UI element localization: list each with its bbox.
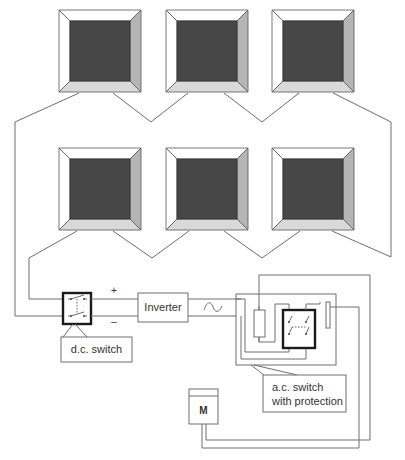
pv-cell-area xyxy=(177,159,237,219)
solar-panel xyxy=(59,10,141,92)
dc-switch-label: d.c. switch xyxy=(71,343,122,355)
pv-cell-area xyxy=(177,21,237,81)
inverter: Inverter xyxy=(138,293,188,322)
pv-array xyxy=(59,10,354,230)
pv-system-diagram: + – d.c. switch Inverter xyxy=(0,0,405,460)
dc-switch-callout: d.c. switch xyxy=(61,324,132,362)
solar-panel xyxy=(166,148,248,230)
ac-switch-assembly xyxy=(202,275,370,448)
ac-switch-label-line2: with protection xyxy=(271,395,343,407)
ac-switch-label-line1: a.c. switch xyxy=(272,381,323,393)
ac-switch-callout: a.c. switch with protection xyxy=(251,365,346,412)
solar-panel xyxy=(272,10,354,92)
solar-panel xyxy=(272,148,354,230)
pv-cell-area xyxy=(283,21,343,81)
sine-wave-icon xyxy=(204,303,222,312)
meter: M xyxy=(189,389,218,424)
ac-output xyxy=(188,299,241,316)
solar-panel xyxy=(166,10,248,92)
pv-cell-area xyxy=(70,21,130,81)
dc-bus: + – xyxy=(91,285,138,327)
meter-label: M xyxy=(199,405,207,416)
dc-switch xyxy=(63,293,91,324)
inverter-label: Inverter xyxy=(144,301,182,313)
dc-minus-label: – xyxy=(111,316,117,327)
pv-cell-area xyxy=(283,159,343,219)
dc-plus-label: + xyxy=(111,285,117,296)
solar-panel xyxy=(59,148,141,230)
pv-cell-area xyxy=(70,159,130,219)
string-wiring-bottom xyxy=(29,231,391,299)
